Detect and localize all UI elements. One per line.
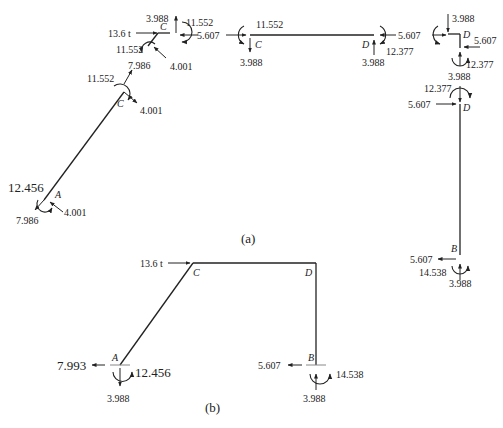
db-top-node-label: D (462, 102, 471, 113)
member-ca-free-body: 7.986 11.552 C 4.001 12.456 7.986 A 4.00… (8, 60, 163, 226)
db-bottom-node-label: B (451, 243, 457, 254)
ca-top-moment-label: 11.552 (87, 73, 114, 84)
cd-left-node-label: C (255, 39, 262, 50)
ca-bottom-node-label: A (54, 189, 62, 200)
moment-right-label: 11.552 (186, 17, 213, 28)
support-a-vertical-label: 3.988 (107, 393, 130, 404)
member-db-free-body: 12.377 5.607 D B 5.607 14.538 3.988 (408, 83, 472, 289)
ca-top-axial-label: 7.986 (128, 60, 151, 71)
joint-d-horizontal-right-label: 5.607 (474, 35, 497, 46)
frame-b-node-c: C (193, 267, 200, 278)
cd-right-vertical-label: 3.988 (362, 57, 385, 68)
db-bottom-vertical-label: 3.988 (449, 278, 472, 289)
frame-b-applied-load-label: 13.6 t (140, 258, 163, 269)
support-b-vertical-label: 3.988 (303, 393, 326, 404)
applied-load-label: 13.6 t (108, 28, 131, 39)
horizontal-right-label: 5.607 (197, 30, 220, 41)
ca-bottom-shear-arrow (50, 202, 63, 212)
caption-a: (a) (241, 231, 255, 246)
support-b-moment-label: 14.538 (336, 369, 364, 380)
cd-right-horizontal-label: 5.607 (398, 30, 421, 41)
db-top-horizontal-label: 5.607 (408, 99, 431, 110)
support-a-horizontal-label: 7.993 (57, 358, 86, 373)
support-b-moment-icon (310, 374, 330, 384)
joint-d-moment-label: 12.377 (466, 59, 494, 70)
diag-force-label: 4.001 (170, 61, 193, 72)
frame-b-node-a: A (111, 352, 119, 363)
ca-top-shear-label: 4.001 (140, 105, 163, 116)
joint-c-diagonal-stub (148, 33, 158, 46)
db-top-moment-label: 12.377 (424, 83, 452, 94)
moment-left-label: 11.552 (116, 44, 143, 55)
joint-d-vertical-down-label: 3.988 (452, 13, 475, 24)
ca-top-node-label: C (117, 98, 124, 109)
cd-left-vertical-label: 3.988 (240, 57, 263, 68)
db-bottom-moment-label: 14.538 (419, 267, 447, 278)
frame-b-node-d: D (304, 267, 313, 278)
joint-d-free-body: 3.988 D 5.607 12.377 3.988 (432, 13, 497, 82)
support-a-moment-icon (113, 372, 132, 382)
frame-b-node-b: B (308, 352, 314, 363)
support-b-horizontal-label: 5.607 (258, 360, 281, 371)
ca-bottom-axial-label: 7.986 (16, 215, 39, 226)
frame-b-member-ac (120, 263, 193, 365)
member-ca-line (44, 92, 124, 200)
cd-right-node-label: D (361, 39, 370, 50)
member-cd-free-body: 11.552 C 3.988 D 3.988 12.377 5.607 (226, 19, 421, 68)
ca-top-axial-arrow (124, 70, 132, 84)
db-bottom-horizontal-label: 5.607 (410, 254, 433, 265)
cd-right-moment-label: 12.377 (386, 46, 414, 57)
joint-c-free-body: 13.6 t C 3.988 11.552 5.607 11.552 4.001 (108, 13, 220, 72)
ca-bottom-axial-arrow (35, 200, 44, 210)
support-a-moment-label: 12.456 (135, 365, 171, 380)
frame-free-body-diagram: 13.6 t C 3.988 11.552 5.607 11.552 4.001… (0, 0, 503, 428)
caption-b: (b) (205, 400, 220, 415)
diag-force-arrow (154, 47, 166, 58)
ca-bottom-shear-label: 4.001 (64, 207, 87, 218)
frame-b: 13.6 t C D A 7.993 12.456 3.988 B 5.607 … (57, 258, 364, 404)
vertical-up-label: 3.988 (146, 13, 169, 24)
joint-d-vertical-bottom-label: 3.988 (448, 71, 471, 82)
cd-left-moment-label: 11.552 (256, 19, 283, 30)
joint-d-node-label: D (462, 29, 471, 40)
ca-bottom-moment-label: 12.456 (8, 180, 44, 195)
moment-left-icon (142, 42, 155, 52)
